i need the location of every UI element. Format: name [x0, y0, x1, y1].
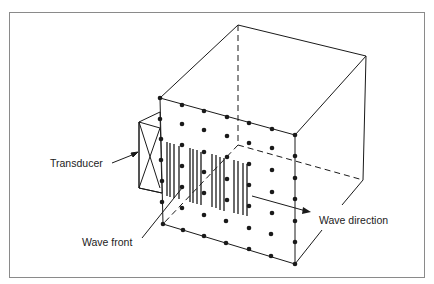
ultrasonic-wave-diagram: Transducer Wave front Wave direction	[0, 0, 434, 284]
cube-edge	[238, 25, 366, 56]
wave-direction-arrow	[252, 196, 311, 214]
cube	[160, 25, 366, 264]
transducer	[139, 112, 162, 193]
hidden-edge	[238, 145, 363, 180]
transducer-label: Transducer	[50, 157, 103, 169]
cube-edge	[295, 230, 322, 264]
wave-direction-label: Wave direction	[319, 214, 388, 226]
transducer-leader-arrowhead	[131, 152, 138, 157]
wave-front-label: Wave front	[82, 236, 132, 248]
cube-edge	[363, 56, 366, 180]
cube-edge	[295, 56, 366, 135]
wave-front	[167, 142, 247, 216]
figure-frame	[10, 13, 425, 278]
diagram-canvas: Transducer Wave front Wave direction	[0, 0, 434, 284]
cube-edge	[160, 25, 238, 98]
cube-edge	[342, 180, 363, 205]
